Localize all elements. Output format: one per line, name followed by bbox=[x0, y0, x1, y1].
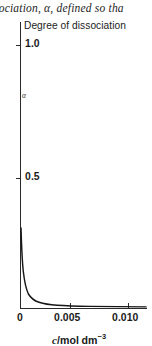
x-tick-label-0.010: 0.010 bbox=[112, 312, 139, 323]
x-tick-label-0.005: 0.005 bbox=[54, 312, 81, 323]
dissociation-curve bbox=[21, 228, 146, 307]
y-tick-label-0.5: 0.5 bbox=[25, 171, 40, 182]
x-axis-title-exponent: −3 bbox=[97, 332, 106, 341]
plot-canvas bbox=[0, 17, 152, 346]
alpha-axis-symbol: α bbox=[22, 91, 26, 100]
body-text-fragment: sociation, α, defined so tha bbox=[0, 0, 152, 17]
y-tick-label-1.0: 1.0 bbox=[25, 38, 40, 49]
y-axis-title: Degree of dissociation bbox=[24, 20, 126, 31]
dissociation-chart: Degree of dissociation 1.0 0.5 α 0 0.005… bbox=[0, 17, 152, 346]
x-axis-title: c/mol dm−3 bbox=[52, 334, 106, 346]
x-axis-title-units: /mol dm bbox=[57, 334, 98, 346]
x-tick-label-0: 0 bbox=[17, 312, 23, 323]
figure-page: sociation, α, defined so tha Degree of d… bbox=[0, 0, 152, 346]
